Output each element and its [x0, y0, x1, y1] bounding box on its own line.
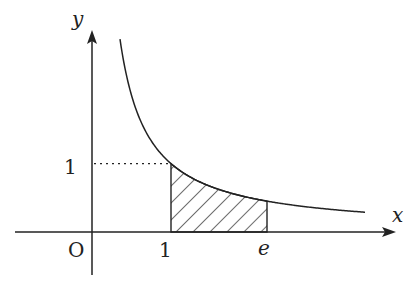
diagram-canvas: y x O 1 e 1 — [0, 0, 417, 283]
y-tick-label-1: 1 — [64, 155, 77, 179]
x-tick-label-e: e — [258, 236, 270, 260]
curve-y-equals-1-over-x — [120, 39, 365, 212]
x-axis-label: x — [392, 203, 403, 227]
x-tick-label-1: 1 — [159, 238, 172, 262]
y-axis-label: y — [71, 7, 84, 31]
origin-label: O — [68, 238, 84, 262]
